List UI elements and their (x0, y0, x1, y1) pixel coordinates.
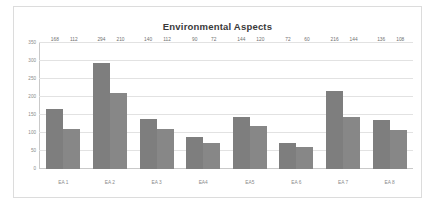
bar-value-label: 60 (304, 37, 309, 42)
bar[interactable]: 144 (343, 117, 360, 169)
bar[interactable]: 108 (390, 130, 407, 169)
bars-layer: 1681122942101401129072144120726021614413… (40, 43, 413, 169)
y-tick-label-350: 350 (28, 40, 36, 45)
bar-group: 7260 (273, 43, 320, 169)
bar-wrapper: 144 (343, 43, 360, 169)
bar[interactable]: 140 (140, 119, 157, 169)
bar-value-label: 144 (350, 37, 358, 42)
bar-wrapper: 112 (157, 43, 174, 169)
x-tick-label: EA 3 (133, 180, 180, 185)
x-tick-label: EA 2 (87, 180, 134, 185)
y-tick-label-150: 150 (28, 112, 36, 117)
bar-wrapper: 168 (46, 43, 63, 169)
bar-group: 140112 (133, 43, 180, 169)
bar[interactable]: 210 (110, 93, 127, 169)
bar-wrapper: 140 (140, 43, 157, 169)
bar-group: 294210 (87, 43, 134, 169)
x-tick-label: EA 1 (40, 180, 87, 185)
bar-wrapper: 144 (233, 43, 250, 169)
bar-value-label: 216 (331, 37, 339, 42)
bar-wrapper: 72 (203, 43, 220, 169)
bar-value-label: 144 (237, 37, 245, 42)
y-tick-label-100: 100 (28, 130, 36, 135)
y-tick-label-50: 50 (31, 148, 36, 153)
bar[interactable]: 72 (279, 143, 296, 169)
bar[interactable]: 112 (157, 129, 174, 169)
y-tick-label-0: 0 (33, 166, 36, 171)
bar-value-label: 120 (256, 37, 264, 42)
plot-area: 050100150200250300350 168112294210140112… (39, 43, 413, 169)
bar-wrapper: 112 (63, 43, 80, 169)
bar[interactable]: 144 (233, 117, 250, 169)
bar-wrapper: 108 (390, 43, 407, 169)
bar[interactable]: 168 (46, 109, 63, 169)
bar-group: 136108 (366, 43, 413, 169)
bar-value-label: 108 (396, 37, 404, 42)
bar-group: 168112 (40, 43, 87, 169)
bar-wrapper: 60 (296, 43, 313, 169)
bar[interactable]: 90 (186, 137, 203, 169)
bar[interactable]: 216 (326, 91, 343, 169)
bar-value-label: 72 (211, 37, 216, 42)
x-tick-label: EA 6 (273, 180, 320, 185)
bar[interactable]: 294 (93, 63, 110, 169)
x-tick-label: EA4 (180, 180, 227, 185)
bar[interactable]: 136 (373, 120, 390, 169)
bar-value-label: 136 (377, 37, 385, 42)
bar-group: 216144 (320, 43, 367, 169)
bar-group: 144120 (227, 43, 274, 169)
bar-value-label: 90 (192, 37, 197, 42)
bar-value-label: 294 (97, 37, 105, 42)
bar-value-label: 112 (163, 37, 171, 42)
bar-value-label: 140 (144, 37, 152, 42)
bar-value-label: 210 (116, 37, 124, 42)
bar-wrapper: 210 (110, 43, 127, 169)
bar-wrapper: 294 (93, 43, 110, 169)
chart-container: Environmental Aspects 050100150200250300… (13, 6, 422, 198)
bar-wrapper: 72 (279, 43, 296, 169)
x-tick-label: EA5 (227, 180, 274, 185)
bar-wrapper: 216 (326, 43, 343, 169)
y-tick-label-300: 300 (28, 58, 36, 63)
bar-value-label: 112 (70, 37, 78, 42)
bar-group: 9072 (180, 43, 227, 169)
chart-title: Environmental Aspects (14, 21, 421, 32)
bar[interactable]: 120 (250, 126, 267, 169)
bar[interactable]: 60 (296, 147, 313, 169)
x-tick-label: EA 8 (366, 180, 413, 185)
bar[interactable]: 112 (63, 129, 80, 169)
bar-wrapper: 120 (250, 43, 267, 169)
x-axis-labels: EA 1EA 2EA 3EA4EA5EA 6EA 7EA 8 (40, 180, 413, 185)
y-tick-label-250: 250 (28, 76, 36, 81)
bar-wrapper: 136 (373, 43, 390, 169)
bar-value-label: 168 (51, 37, 59, 42)
x-tick-label: EA 7 (320, 180, 367, 185)
bar-value-label: 72 (285, 37, 290, 42)
y-tick-label-200: 200 (28, 94, 36, 99)
bar[interactable]: 72 (203, 143, 220, 169)
bar-wrapper: 90 (186, 43, 203, 169)
